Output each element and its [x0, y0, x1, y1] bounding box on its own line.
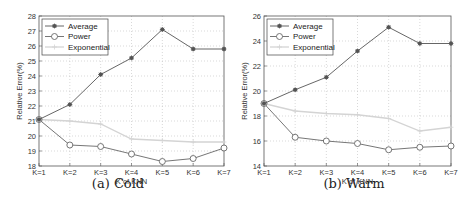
average-marker	[355, 49, 360, 54]
average-marker	[191, 47, 196, 52]
caption-warm: (b) Warm	[236, 176, 472, 191]
legend-average-icon	[277, 24, 282, 29]
average-marker	[67, 102, 72, 107]
average-marker	[37, 117, 42, 122]
power-marker	[292, 134, 298, 140]
average-marker	[324, 75, 329, 80]
caption-cold: (a) Cold	[0, 176, 236, 191]
svg-text:22: 22	[253, 62, 261, 71]
svg-text:Exponential: Exponential	[68, 43, 110, 52]
legend: AveragePowerExponential	[42, 19, 110, 55]
svg-text:24: 24	[253, 37, 261, 46]
legend-power-icon	[277, 34, 283, 40]
svg-text:20: 20	[28, 132, 36, 141]
svg-text:27: 27	[28, 27, 36, 36]
legend-power-icon	[52, 34, 58, 40]
svg-text:Average: Average	[293, 22, 323, 31]
svg-text:Exponential: Exponential	[293, 43, 335, 52]
average-marker	[222, 47, 227, 52]
svg-text:25: 25	[28, 57, 36, 66]
svg-text:24: 24	[28, 72, 36, 81]
y-axis-label: Relative Error(%)	[240, 62, 249, 120]
average-marker	[449, 41, 454, 46]
y-axis-label: Relative Error(%)	[15, 62, 24, 120]
svg-text:20: 20	[253, 87, 261, 96]
svg-text:26: 26	[253, 12, 261, 21]
svg-text:Power: Power	[293, 32, 316, 41]
power-marker	[417, 144, 423, 150]
average-marker	[417, 41, 422, 46]
legend-average-icon	[52, 24, 57, 29]
power-marker	[448, 143, 454, 149]
svg-text:22: 22	[28, 102, 36, 111]
svg-text:16: 16	[253, 137, 261, 146]
chart-panel-cold: 1819202122232425262728K=1K=2K=3K=4K=5K=6…	[0, 0, 236, 218]
svg-text:19: 19	[28, 147, 36, 156]
svg-text:Power: Power	[68, 32, 91, 41]
average-marker	[160, 27, 165, 32]
svg-text:18: 18	[253, 112, 261, 121]
svg-text:23: 23	[28, 87, 36, 96]
average-marker	[293, 87, 298, 92]
average-marker	[98, 72, 103, 77]
svg-text:21: 21	[28, 117, 36, 126]
power-marker	[98, 144, 104, 150]
power-marker	[355, 141, 361, 147]
average-marker	[386, 25, 391, 30]
average-marker	[262, 101, 267, 106]
power-marker	[386, 147, 392, 153]
power-marker	[67, 142, 73, 148]
average-marker	[129, 56, 134, 61]
svg-text:26: 26	[28, 42, 36, 51]
power-marker	[190, 156, 196, 162]
chart-panel-warm: 14161820222426K=1K=2K=3K=4K=5K=6K=7K of …	[236, 0, 472, 218]
power-marker	[221, 145, 227, 151]
power-marker	[129, 151, 135, 157]
power-marker	[323, 138, 329, 144]
svg-text:28: 28	[28, 12, 36, 21]
svg-text:Average: Average	[68, 22, 98, 31]
legend: AveragePowerExponential	[267, 19, 335, 55]
power-marker	[159, 159, 165, 165]
